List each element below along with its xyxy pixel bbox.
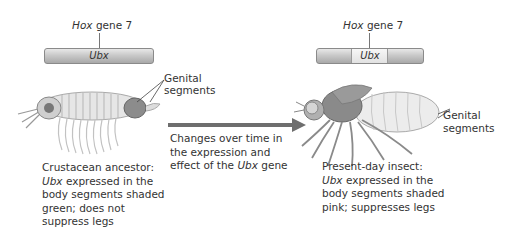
arrow-caption: Changes over time in the expression and … — [170, 132, 288, 173]
ubx-italic: Ubx — [42, 175, 63, 187]
segments-text: segments — [443, 122, 495, 135]
fly-illustration — [292, 82, 452, 172]
left-gene-bar: Ubx — [44, 48, 154, 64]
ubx-italic: Ubx — [322, 174, 343, 186]
caption-line: Ubx expressed in the — [42, 175, 165, 189]
caption-line: green; does not — [42, 202, 165, 216]
caption-text: expressed in the — [63, 175, 154, 187]
right-gene-bar: Ubx — [316, 48, 424, 64]
caption-line: body segments shaded — [42, 188, 165, 202]
caption-line: suppress legs — [42, 215, 165, 229]
genital-text: Genital — [443, 109, 495, 122]
caption-line: Changes over time in — [170, 132, 288, 146]
hox-italic: Hox — [72, 19, 93, 31]
caption-line: Present-day insect: — [322, 160, 445, 174]
left-gene-connector — [99, 33, 100, 48]
caption-text: effect of the — [170, 159, 237, 171]
caption-line: Crustacean ancestor: — [42, 161, 165, 175]
gene-number: gene 7 — [93, 19, 133, 31]
caption-line: Ubx expressed in the — [322, 174, 445, 188]
right-gene-connector — [369, 33, 370, 48]
right-gene-label: Hox gene 7 — [343, 19, 403, 32]
left-gene-label: Hox gene 7 — [72, 19, 132, 32]
hox-italic: Hox — [343, 19, 364, 31]
left-ubx-label: Ubx — [45, 49, 153, 63]
right-genital-label: Genital segments — [443, 109, 495, 135]
left-genital-label: Genital segments — [164, 72, 216, 96]
insect-caption: Present-day insect: Ubx expressed in the… — [322, 160, 445, 214]
caption-line: the expression and — [170, 146, 288, 160]
evolution-arrow-icon — [166, 118, 308, 132]
ubx-italic: Ubx — [237, 159, 258, 171]
crustacean-illustration — [12, 78, 172, 158]
caption-line: pink; suppresses legs — [322, 201, 445, 215]
caption-text: expressed in the — [343, 174, 434, 186]
right-ubx-label: Ubx — [317, 49, 423, 63]
caption-line: effect of the Ubx gene — [170, 159, 288, 173]
caption-text: gene — [258, 159, 288, 171]
segments-text: segments — [164, 84, 216, 96]
genital-text: Genital — [164, 72, 216, 84]
caption-line: body segments shaded — [322, 187, 445, 201]
gene-number: gene 7 — [364, 19, 404, 31]
crustacean-caption: Crustacean ancestor: Ubx expressed in th… — [42, 161, 165, 229]
